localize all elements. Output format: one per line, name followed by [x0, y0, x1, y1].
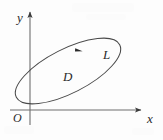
curve-label-L: L	[103, 48, 110, 61]
figure-drawing	[0, 0, 163, 140]
region-label-D: D	[63, 70, 72, 83]
figure-container: y x O L D	[0, 0, 163, 140]
x-axis-label: x	[147, 112, 153, 125]
curve-orientation-arrowhead	[75, 48, 83, 51]
y-axis-label: y	[17, 11, 23, 24]
origin-label: O	[13, 112, 22, 124]
